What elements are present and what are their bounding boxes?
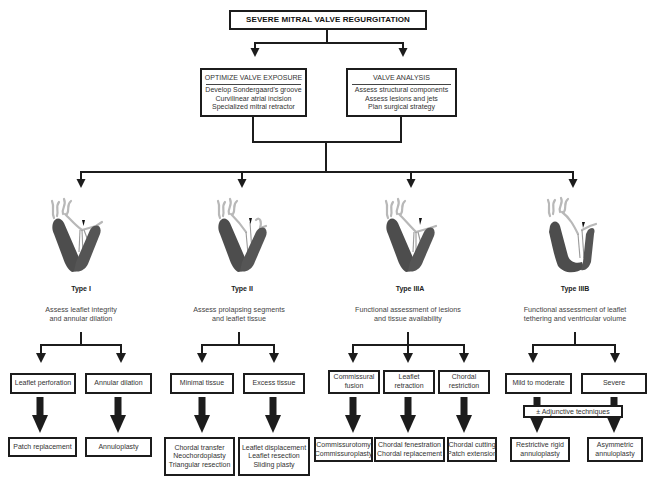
lesion-excess-tissue: Excess tissue xyxy=(243,373,305,394)
heart-valve-icon-type-ii xyxy=(212,196,272,276)
heart-valve-icon-type-i xyxy=(46,196,106,276)
lesion-text: retraction xyxy=(394,382,423,391)
type-iiib-assessment: Functional assessment of leaflet tetheri… xyxy=(524,305,627,323)
technique-asymmetric-annuloplasty: Asymmetric annuloplasty xyxy=(587,437,643,462)
technique-leaflet-displacement: Leaflet displacement Leaflet resection S… xyxy=(238,437,310,476)
assessment-line: Assess prolapsing segments xyxy=(193,305,285,314)
type-iiib-label: Type IIIB xyxy=(561,285,590,292)
technique-text: Patch replacement xyxy=(13,443,71,452)
technique-text: Leaflet resection xyxy=(248,452,299,461)
type-iiia-assessment: Functional assessment of lesions and tis… xyxy=(355,305,461,323)
technique-text: Commissurotomy xyxy=(316,441,370,450)
step-heading: VALVE ANALYSIS xyxy=(373,73,430,82)
divider xyxy=(206,84,301,85)
heart-valve-icon-type-iiia xyxy=(380,196,440,276)
assessment-line: Functional assessment of leaflet xyxy=(524,305,627,314)
lesion-text: Leaflet perforation xyxy=(15,379,71,388)
technique-text: Leaflet displacement xyxy=(242,444,306,453)
assessment-line: and tissue availability xyxy=(355,314,461,323)
assessment-line: tethering and ventricular volume xyxy=(524,314,627,323)
lesion-leaflet-perforation: Leaflet perforation xyxy=(10,373,76,394)
technique-text: Commissuroplasty xyxy=(315,450,373,459)
assessment-line: and leaflet tissue xyxy=(193,314,285,323)
technique-chordal-fenestration: Chordal fenestration Chordal replacement xyxy=(374,437,445,462)
lesion-text: Chordal xyxy=(452,373,477,382)
technique-text: Chordal transfer xyxy=(174,444,224,453)
lesion-minimal-tissue: Minimal tissue xyxy=(170,373,234,394)
step-line: Specialized mitral retractor xyxy=(212,103,295,112)
technique-text: Restrictive rigid xyxy=(516,441,564,450)
lesion-mild-to-moderate: Mild to moderate xyxy=(505,373,572,394)
technique-chordal-transfer: Chordal transfer Neochordoplasty Triangu… xyxy=(164,437,235,476)
assessment-line: Functional assessment of lesions xyxy=(355,305,461,314)
step-line: Develop Sondergaard's groove xyxy=(205,86,301,95)
step-line: Assess structural components xyxy=(355,86,448,95)
technique-annuloplasty: Annuloplasty xyxy=(85,437,152,457)
optimize-exposure-box: OPTIMIZE VALVE EXPOSURE Develop Sonderga… xyxy=(200,68,307,117)
lesion-text: Severe xyxy=(603,379,625,388)
assessment-line: Assess leaflet integrity xyxy=(45,305,117,314)
lesion-text: fusion xyxy=(345,382,364,391)
technique-text: annuloplasty xyxy=(595,450,634,459)
type-ii-assessment: Assess prolapsing segments and leaflet t… xyxy=(193,305,285,323)
mitral-valve-flowchart: SEVERE MITRAL VALVE REGURGITATION OPTIMI… xyxy=(0,0,661,482)
technique-text: Asymmetric xyxy=(597,441,634,450)
lesion-annular-dilation: Annular dilation xyxy=(85,373,152,394)
heart-valve-icon-type-iiib xyxy=(544,196,604,276)
divider xyxy=(352,84,450,85)
lesion-text: Commissural xyxy=(334,373,375,382)
technique-text: annuloplasty xyxy=(520,450,559,459)
technique-text: Neochordoplasty xyxy=(173,452,226,461)
lesion-text: Mild to moderate xyxy=(512,379,564,388)
technique-text: Chordal fenestration xyxy=(378,441,441,450)
technique-commissurotomy: Commissurotomy Commissuroplasty xyxy=(314,437,373,462)
step-line: Curvilinear atrial incision xyxy=(216,95,292,104)
lesion-text: restriction xyxy=(449,382,479,391)
lesion-text: Excess tissue xyxy=(253,379,296,388)
title-text: SEVERE MITRAL VALVE REGURGITATION xyxy=(246,16,410,25)
step-line: Assess lesions and jets xyxy=(365,95,438,104)
technique-text: Chordal replacement xyxy=(377,450,442,459)
lesion-chordal-restriction: Chordal restriction xyxy=(438,370,490,394)
technique-text: Annuloplasty xyxy=(98,443,138,452)
type-i-label: Type I xyxy=(71,285,91,292)
adjunctive-techniques-box: ± Adjunctive techniques xyxy=(523,405,623,418)
technique-chordal-cutting: Chordal cutting Patch extension xyxy=(447,437,497,462)
technique-patch-replacement: Patch replacement xyxy=(8,437,77,457)
technique-restrictive-rigid-annuloplasty: Restrictive rigid annuloplasty xyxy=(510,437,570,462)
step-line: Plan surgical strategy xyxy=(368,103,435,112)
lesion-severe: Severe xyxy=(581,373,647,394)
technique-text: Sliding plasty xyxy=(253,461,294,470)
lesion-text: Leaflet xyxy=(398,373,419,382)
adjunctive-text: ± Adjunctive techniques xyxy=(536,407,610,416)
valve-analysis-box: VALVE ANALYSIS Assess structural compone… xyxy=(346,68,457,117)
lesion-text: Annular dilation xyxy=(94,379,142,388)
title-box: SEVERE MITRAL VALVE REGURGITATION xyxy=(229,10,427,30)
technique-text: Patch extension xyxy=(447,450,497,459)
technique-text: Triangular resection xyxy=(169,461,231,470)
assessment-line: and annular dilation xyxy=(45,314,117,323)
lesion-leaflet-retraction: Leaflet retraction xyxy=(383,370,435,394)
lesion-text: Minimal tissue xyxy=(180,379,224,388)
technique-text: Chordal cutting xyxy=(448,441,495,450)
step-heading: OPTIMIZE VALVE EXPOSURE xyxy=(205,73,302,82)
type-iiia-label: Type IIIA xyxy=(396,285,425,292)
lesion-commissural-fusion: Commissural fusion xyxy=(328,370,380,394)
type-ii-label: Type II xyxy=(231,285,253,292)
type-i-assessment: Assess leaflet integrity and annular dil… xyxy=(45,305,117,323)
